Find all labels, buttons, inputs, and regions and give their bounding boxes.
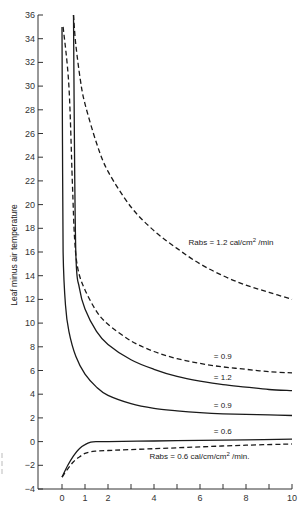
y-tick-label: −4 — [25, 484, 35, 494]
y-tick-label: 2 — [30, 413, 35, 423]
y-tick-label: 34 — [25, 34, 35, 44]
x-tick-label: 10 — [287, 493, 297, 503]
y-tick-label: 8 — [30, 342, 35, 352]
curve-label: = 1.2 — [214, 373, 233, 382]
chart: −4−2024681012141618202224262830323436012… — [0, 0, 302, 509]
y-tick-label: 36 — [25, 10, 35, 20]
y-tick-label: 20 — [25, 200, 35, 210]
y-tick-label: 6 — [30, 366, 35, 376]
x-tick-label: 4 — [151, 493, 156, 503]
curve-label: Rabs = 1.2 cal/cm2 /min — [189, 237, 274, 247]
y-tick-label: 32 — [25, 57, 35, 67]
x-tick-label: 0 — [59, 493, 64, 503]
y-tick-label: 0 — [30, 437, 35, 447]
x-tick-label: 6 — [197, 493, 202, 503]
curve-label: = 0.6 — [214, 427, 233, 436]
curve-3 — [62, 27, 292, 416]
y-tick-label: 16 — [25, 247, 35, 257]
x-tick-label: 8 — [243, 493, 248, 503]
y-tick-label: 30 — [25, 81, 35, 91]
x-tick-label: 1 — [82, 493, 87, 503]
curve-label: = 0.9 — [214, 352, 233, 361]
y-tick-label: 24 — [25, 152, 35, 162]
curve-0 — [74, 15, 293, 299]
y-tick-label: 26 — [25, 129, 35, 139]
y-tick-label: 18 — [25, 223, 35, 233]
ticks: −4−2024681012141618202224262830323436012… — [25, 10, 297, 503]
curve-2 — [74, 15, 293, 391]
y-axis-label: Leaf minus air temperature — [9, 204, 19, 306]
y-tick-label: 22 — [25, 176, 35, 186]
curve-label: Rabs = 0.6 cal/cm/cm2 /min. — [149, 451, 249, 461]
y-tick-label: 28 — [25, 105, 35, 115]
x-tick-label: 2 — [105, 493, 110, 503]
y-tick-label: 10 — [25, 318, 35, 328]
y-tick-label: 14 — [25, 271, 35, 281]
curve-1 — [63, 27, 292, 373]
y-tick-label: 4 — [30, 389, 35, 399]
y-tick-label: −2 — [25, 460, 35, 470]
y-tick-label: 12 — [25, 294, 35, 304]
curve-label: = 0.9 — [214, 401, 233, 410]
